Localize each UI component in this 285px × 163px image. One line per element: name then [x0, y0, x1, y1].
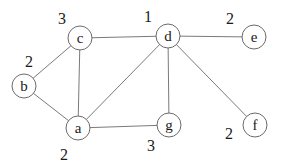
node-label: e — [251, 29, 258, 45]
edge-c-a — [78, 38, 80, 128]
edge-c-d — [80, 36, 168, 38]
node-label: a — [75, 120, 82, 136]
node-g: g — [157, 113, 181, 137]
node-label: f — [253, 117, 258, 133]
node-weight-c: 3 — [58, 10, 66, 27]
nodes-group: abcdefg — [12, 24, 267, 140]
node-d: d — [156, 24, 180, 48]
node-c: c — [68, 26, 92, 50]
graph-diagram: abcdefg 2231223 — [0, 0, 285, 163]
weights-group: 2231223 — [25, 8, 234, 163]
edge-d-g — [168, 36, 169, 125]
node-weight-f: 2 — [225, 125, 233, 142]
node-label: d — [164, 28, 172, 44]
node-b: b — [12, 74, 36, 98]
node-weight-e: 2 — [226, 10, 234, 27]
node-e: e — [242, 25, 266, 49]
node-label: g — [165, 117, 173, 133]
node-a: a — [66, 116, 90, 140]
node-label: c — [77, 30, 84, 46]
edges-group — [24, 36, 255, 128]
node-weight-b: 2 — [25, 53, 33, 70]
node-weight-a: 2 — [60, 146, 68, 163]
node-label: b — [20, 78, 28, 94]
node-weight-g: 3 — [147, 137, 155, 154]
edge-d-a — [78, 36, 168, 128]
edge-a-g — [78, 125, 169, 128]
node-weight-d: 1 — [144, 8, 152, 25]
edge-d-f — [168, 36, 255, 125]
edge-d-e — [168, 36, 254, 37]
node-f: f — [243, 113, 267, 137]
